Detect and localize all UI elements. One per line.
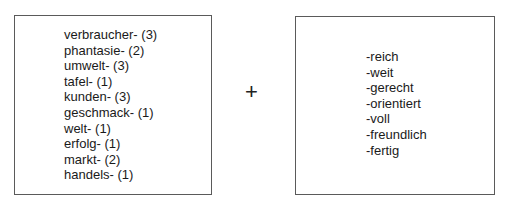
list-item: geschmack- (1) — [64, 105, 157, 121]
list-item: -reich — [366, 49, 427, 65]
list-item: -gerecht — [366, 80, 427, 96]
word-stem-box: verbraucher- (3) phantasie- (2) umwelt- … — [14, 15, 212, 195]
list-item: tafel- (1) — [64, 74, 157, 90]
list-item: kunden- (3) — [64, 89, 157, 105]
list-item: -weit — [366, 65, 427, 81]
suffix-list: -reich -weit -gerecht -orientiert -voll … — [366, 49, 427, 158]
list-item: welt- (1) — [64, 121, 157, 137]
list-item: -orientiert — [366, 96, 427, 112]
list-item: -fertig — [366, 143, 427, 159]
suffix-box: -reich -weit -gerecht -orientiert -voll … — [295, 16, 495, 195]
list-item: -voll — [366, 111, 427, 127]
list-item: -freundlich — [366, 127, 427, 143]
list-item: umwelt- (3) — [64, 58, 157, 74]
list-item: erfolg- (1) — [64, 136, 157, 152]
list-item: verbraucher- (3) — [64, 27, 157, 43]
list-item: phantasie- (2) — [64, 43, 157, 59]
list-item: markt- (2) — [64, 152, 157, 168]
plus-operator: + — [245, 81, 258, 103]
word-stem-list: verbraucher- (3) phantasie- (2) umwelt- … — [64, 27, 157, 183]
list-item: handels- (1) — [64, 167, 157, 183]
